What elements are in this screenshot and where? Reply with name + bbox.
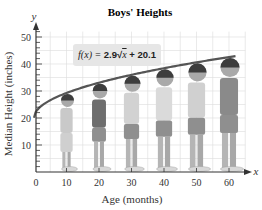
boy-figure xyxy=(220,58,244,171)
boy-shoes xyxy=(62,167,78,172)
y-axis-var: y xyxy=(31,10,37,22)
boy-shorts xyxy=(92,128,106,142)
boy-shorts xyxy=(124,124,139,139)
x-tick-label: 40 xyxy=(159,177,169,188)
boy-figures xyxy=(60,58,243,171)
formula-suffix: + 20.1 xyxy=(127,49,156,60)
boy-leg xyxy=(158,137,163,168)
boy-leg xyxy=(198,135,204,168)
boy-leg xyxy=(62,152,65,168)
boy-shirt xyxy=(60,108,72,133)
boy-shoes xyxy=(220,167,243,172)
boy-figure xyxy=(124,76,144,172)
x-tick-label: 0 xyxy=(34,177,39,188)
boy-shorts xyxy=(60,133,72,152)
boy-shirt xyxy=(92,99,106,127)
y-tick-label: 50 xyxy=(21,32,31,43)
boy-shoes xyxy=(125,167,145,172)
boy-shorts xyxy=(220,115,238,133)
boy-shirt xyxy=(220,78,238,115)
x-tick-label: 30 xyxy=(127,177,137,188)
y-tick-label: 20 xyxy=(21,113,31,124)
boy-hair xyxy=(220,58,239,68)
boy-leg xyxy=(126,139,131,168)
boy-hair xyxy=(124,76,140,84)
formula-prefix: f(x) = xyxy=(78,49,104,60)
boy-leg xyxy=(165,137,170,168)
boy-figure xyxy=(156,69,178,171)
boy-shoes xyxy=(156,167,177,172)
boy-figure xyxy=(60,94,77,172)
boy-leg xyxy=(230,133,236,168)
boy-shoes xyxy=(188,167,210,172)
boy-leg xyxy=(190,135,196,168)
y-tick-label: 40 xyxy=(21,59,31,70)
x-tick-label: 60 xyxy=(224,177,234,188)
boy-leg xyxy=(133,139,138,168)
boy-figure xyxy=(188,63,211,171)
x-tick-label: 10 xyxy=(62,177,72,188)
boy-leg xyxy=(68,152,71,168)
y-tick-label: 10 xyxy=(21,140,31,151)
boy-leg xyxy=(100,142,104,168)
boy-shorts xyxy=(188,118,205,135)
boy-leg xyxy=(94,142,98,168)
boy-shoes xyxy=(93,167,111,172)
formula-annotation: f(x) = 2.9√x + 20.1 xyxy=(73,44,161,66)
boy-hair xyxy=(156,69,173,78)
x-axis-label: Age (months) xyxy=(102,193,163,206)
x-tick-label: 50 xyxy=(192,177,202,188)
x-tick-label: 20 xyxy=(94,177,104,188)
boy-hair xyxy=(188,63,206,72)
chart-title: Boys' Heights xyxy=(108,6,173,18)
x-axis-arrow-icon xyxy=(244,169,252,175)
y-tick-label: 30 xyxy=(21,86,31,97)
chart: Boys' Heights 01020304050601020304050 y … xyxy=(0,0,262,210)
boy-shirt xyxy=(124,93,139,124)
y-axis-arrow-icon xyxy=(33,22,39,30)
formula-coef: 2.9 xyxy=(104,49,117,60)
boy-leg xyxy=(222,133,228,168)
boy-shorts xyxy=(156,121,172,137)
x-axis-var: x xyxy=(253,165,259,177)
y-axis-label: Median Height (inches) xyxy=(2,51,15,156)
boy-shirt xyxy=(188,82,205,117)
boy-shirt xyxy=(156,87,172,120)
